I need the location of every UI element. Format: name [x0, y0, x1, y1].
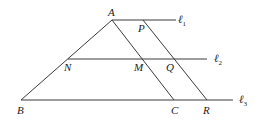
- label-A: A: [107, 6, 115, 18]
- label-R: R: [202, 104, 210, 116]
- label-M: M: [133, 61, 144, 73]
- label-B: B: [17, 104, 24, 116]
- label-l2: ℓ2: [214, 52, 223, 67]
- label-l1: ℓ1: [178, 13, 187, 28]
- label-l3: ℓ3: [239, 93, 248, 108]
- label-C: C: [171, 104, 179, 116]
- label-Q: Q: [166, 61, 174, 73]
- label-N: N: [63, 61, 72, 73]
- segment-AB: [21, 20, 112, 100]
- geometry-diagram: A P N M Q B C R ℓ1 ℓ2 ℓ3: [0, 0, 267, 125]
- segment-PR: [143, 20, 207, 100]
- label-P: P: [137, 22, 145, 34]
